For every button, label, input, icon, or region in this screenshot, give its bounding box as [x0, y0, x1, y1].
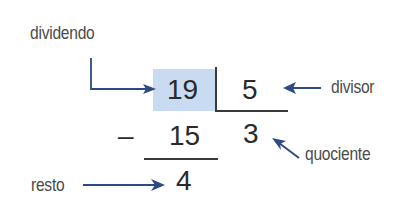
dividend-arrow-icon: [91, 58, 156, 94]
divisor-arrow-icon: [283, 82, 321, 94]
remainder-arrow-icon: [83, 179, 165, 191]
arrows-layer: [0, 0, 419, 198]
quotient-arrow-icon: [272, 138, 299, 158]
